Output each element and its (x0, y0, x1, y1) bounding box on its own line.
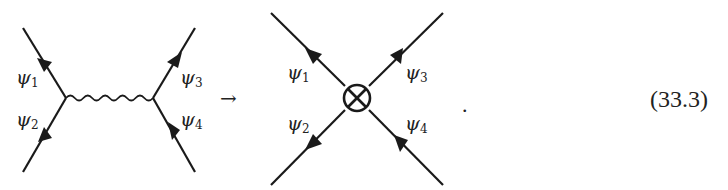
feynman-diagrams (0, 0, 728, 190)
label-psi4-right: ψ4 (405, 114, 428, 135)
left-diagram (23, 28, 195, 172)
psi-symbol: ψ (287, 61, 302, 83)
subscript: 1 (31, 76, 39, 90)
psi-symbol: ψ (405, 61, 420, 83)
arrow-psi2-icon (38, 127, 52, 142)
arrow-psi4-icon (168, 122, 180, 140)
label-psi3-left: ψ3 (180, 68, 203, 89)
otimes-vertex-icon (344, 85, 370, 111)
label-psi4-left: ψ4 (180, 110, 203, 131)
equation-number: (33.3) (650, 86, 708, 113)
subscript: 1 (302, 71, 310, 85)
label-psi3-right: ψ3 (405, 63, 428, 84)
psi-symbol: ψ (180, 108, 195, 130)
implies-arrow: → (220, 86, 237, 110)
subscript: 4 (420, 122, 428, 136)
label-psi1-left: ψ1 (16, 68, 39, 89)
subscript: 2 (31, 118, 39, 132)
psi-symbol: ψ (180, 66, 195, 88)
right-diagram (271, 13, 443, 185)
subscript: 2 (302, 122, 310, 136)
label-psi2-left: ψ2 (16, 110, 39, 131)
psi-symbol: ψ (287, 112, 302, 134)
subscript: 3 (420, 71, 428, 85)
subscript: 4 (195, 118, 203, 132)
psi-symbol: ψ (16, 66, 31, 88)
psi-symbol: ψ (16, 108, 31, 130)
subscript: 3 (195, 76, 203, 90)
psi-symbol: ψ (405, 112, 420, 134)
arrow-psi3-icon (390, 48, 403, 64)
equation-period: . (462, 92, 468, 118)
wavy-propagator (66, 96, 153, 101)
arrow-psi4-icon (394, 135, 408, 152)
label-psi2-right: ψ2 (287, 114, 310, 135)
label-psi1-right: ψ1 (287, 63, 310, 84)
